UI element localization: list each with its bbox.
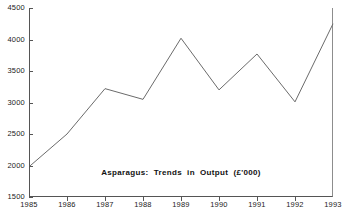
x-tick-label: 1993 — [324, 201, 342, 209]
chart-title: Asparagus: Trends in Output (£'000) — [29, 168, 333, 177]
y-tick-label: 4500 — [8, 4, 26, 12]
x-tick-label: 1991 — [248, 201, 266, 209]
x-tick-label: 1987 — [96, 201, 114, 209]
x-tick-label: 1986 — [58, 201, 76, 209]
y-tick-label: 3500 — [8, 67, 26, 75]
x-tick-label: 1985 — [20, 201, 38, 209]
asparagus-output-line — [29, 24, 333, 167]
x-tick-mark — [295, 197, 296, 201]
y-tick-label: 2000 — [8, 162, 26, 170]
y-tick-label: 2500 — [8, 130, 26, 138]
y-tick-mark — [29, 197, 33, 198]
y-tick-label: 4000 — [8, 36, 26, 44]
x-tick-mark — [257, 197, 258, 201]
asparagus-output-line-chart: 1500200025003000350040004500198519861987… — [0, 0, 361, 217]
x-tick-label: 1992 — [286, 201, 304, 209]
x-tick-label: 1989 — [172, 201, 190, 209]
x-tick-mark — [181, 197, 182, 201]
x-tick-mark — [143, 197, 144, 201]
y-tick-label: 3000 — [8, 99, 26, 107]
x-tick-label: 1990 — [210, 201, 228, 209]
x-tick-label: 1988 — [134, 201, 152, 209]
x-tick-mark — [67, 197, 68, 201]
x-tick-mark — [219, 197, 220, 201]
x-tick-mark — [105, 197, 106, 201]
y-tick-label: 1500 — [8, 193, 26, 201]
